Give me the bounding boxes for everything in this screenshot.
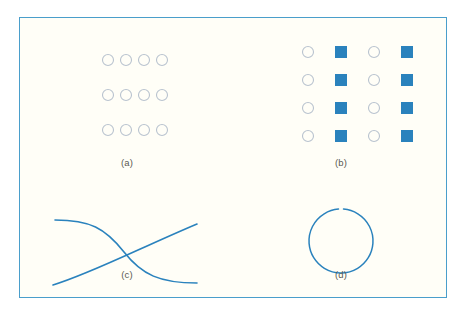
marker-circle-open: [157, 55, 168, 66]
marker-circle-open: [121, 125, 132, 136]
panel-c: (c): [20, 178, 234, 296]
panel-b-markers: [234, 18, 448, 178]
marker-square-filled: [401, 46, 413, 58]
marker-circle-open: [139, 125, 150, 136]
marker-square-filled: [401, 130, 413, 142]
marker-circle-open: [103, 90, 114, 101]
marker-circle-open: [303, 47, 314, 58]
marker-circle-open: [139, 55, 150, 66]
panel-a: (a): [20, 18, 234, 178]
panel-c-label: (c): [20, 270, 234, 280]
marker-circle-open: [103, 55, 114, 66]
marker-circle-open: [139, 90, 150, 101]
circle-outline-shape: [309, 209, 373, 273]
marker-circle-open: [303, 103, 314, 114]
marker-circle-open: [157, 125, 168, 136]
marker-square-filled: [335, 102, 347, 114]
marker-square-filled: [401, 102, 413, 114]
marker-circle-open: [121, 90, 132, 101]
figure-frame: (a) (b) (c) (d): [19, 17, 447, 298]
marker-circle-open: [103, 125, 114, 136]
marker-square-filled: [335, 74, 347, 86]
panel-b: (b): [234, 18, 448, 178]
panel-a-markers: [20, 18, 234, 178]
marker-circle-open: [157, 90, 168, 101]
marker-circle-open: [303, 75, 314, 86]
marker-circle-open: [121, 55, 132, 66]
marker-circle-open: [369, 103, 380, 114]
marker-square-filled: [335, 46, 347, 58]
figure-root: (a) (b) (c) (d): [0, 0, 464, 312]
marker-square-filled: [335, 130, 347, 142]
panel-d-label: (d): [234, 270, 448, 280]
marker-square-filled: [401, 74, 413, 86]
marker-circle-open: [369, 75, 380, 86]
marker-circle-open: [369, 47, 380, 58]
marker-circle-open: [369, 131, 380, 142]
panel-b-label: (b): [234, 158, 448, 168]
panel-d: (d): [234, 178, 448, 296]
panel-a-label: (a): [20, 158, 234, 168]
marker-circle-open: [303, 131, 314, 142]
